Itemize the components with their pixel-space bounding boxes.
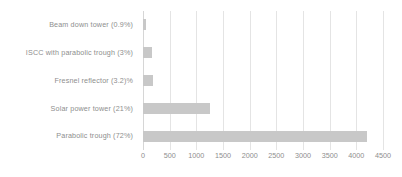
value-axis-tick-label: 0	[141, 152, 145, 159]
category-axis-tick: Parabolic trough (72%)	[0, 122, 138, 150]
category-axis-label: Beam down tower (0.9%)	[49, 21, 133, 28]
bar-row	[143, 39, 383, 67]
category-axis-tick: Solar power tower (21%)	[0, 94, 138, 122]
bar	[143, 47, 152, 58]
bar-row	[143, 122, 383, 150]
value-axis-tick-label: 3500	[322, 152, 338, 159]
value-axis-tick-label: 1000	[188, 152, 204, 159]
gridline	[383, 11, 384, 150]
value-axis-tick-label: 2500	[268, 152, 284, 159]
value-axis-tick-label: 4000	[348, 152, 364, 159]
bar	[143, 103, 210, 114]
bar-series	[143, 11, 383, 150]
value-axis-tick-label: 1500	[215, 152, 231, 159]
value-axis-tick-label: 2000	[242, 152, 258, 159]
category-axis-label: ISCC with parabolic trough (3%)	[26, 49, 133, 56]
category-axis: Beam down tower (0.9%) ISCC with parabol…	[0, 11, 138, 150]
bar	[143, 75, 153, 86]
value-axis: 050010001500200025003000350040004500	[143, 152, 383, 168]
value-axis-tick-label: 3000	[295, 152, 311, 159]
category-axis-tick: Beam down tower (0.9%)	[0, 11, 138, 39]
category-axis-tick: Fresnel reflector (3.2)%	[0, 67, 138, 95]
value-axis-tick-label: 500	[164, 152, 176, 159]
bar-row	[143, 11, 383, 39]
bar-row	[143, 94, 383, 122]
category-axis-tick: ISCC with parabolic trough (3%)	[0, 39, 138, 67]
category-axis-label: Solar power tower (21%)	[51, 105, 133, 112]
bar	[143, 19, 146, 30]
plot-area	[143, 11, 383, 150]
value-axis-tick-label: 4500	[375, 152, 391, 159]
category-axis-label: Parabolic trough (72%)	[56, 132, 133, 139]
bar-chart: Beam down tower (0.9%) ISCC with parabol…	[0, 0, 402, 177]
bar-row	[143, 67, 383, 95]
bar	[143, 131, 367, 142]
category-axis-label: Fresnel reflector (3.2)%	[54, 77, 133, 84]
